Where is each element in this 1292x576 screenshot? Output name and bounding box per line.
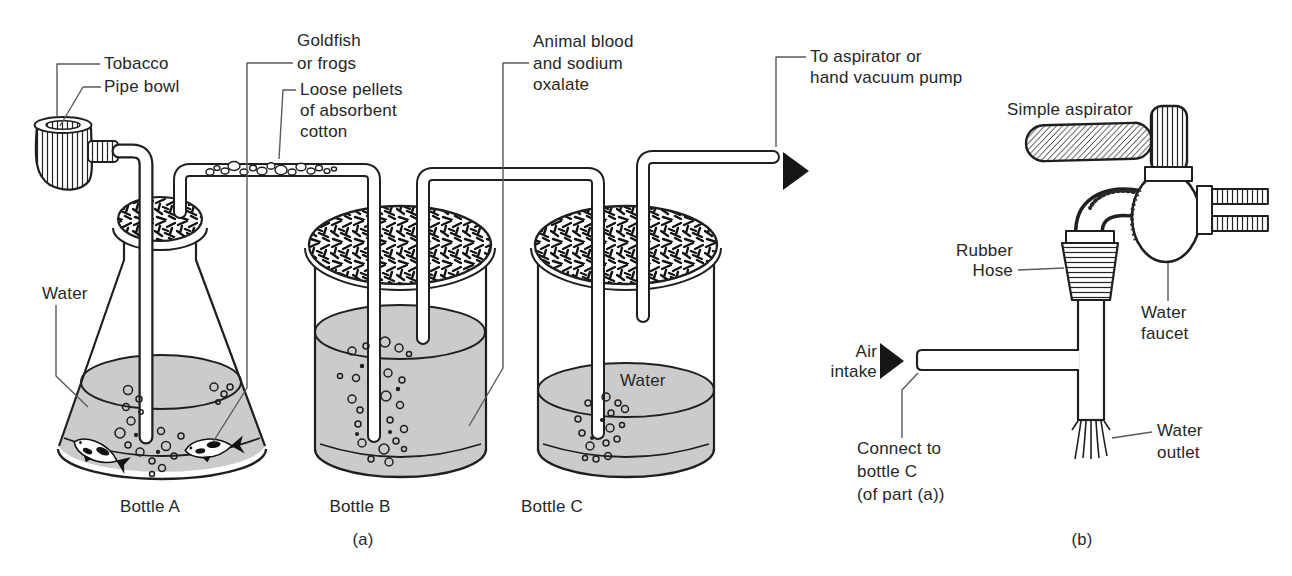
tobacco-pipe xyxy=(35,117,119,190)
label-water-faucet-2: faucet xyxy=(1141,324,1189,343)
faucet-stem xyxy=(1151,106,1187,172)
label-bottle-c: Bottle C xyxy=(521,497,583,516)
label-water-outlet-2: outlet xyxy=(1157,443,1200,462)
label-water-outlet-1: Water xyxy=(1157,421,1203,440)
supply-pipe-bottom xyxy=(1212,216,1268,231)
leader-water-outlet xyxy=(1112,432,1152,438)
faucet-handle xyxy=(1026,122,1153,161)
label-blood-1: Animal blood xyxy=(533,32,634,51)
cotton-stopper-a xyxy=(113,197,207,250)
label-air-intake-1: Air xyxy=(856,342,878,361)
leader-tobacco xyxy=(57,64,100,117)
label-tobacco: Tobacco xyxy=(104,54,169,73)
part-b-aspirator: Simple aspirator Rubber Hose Water fauce… xyxy=(830,100,1268,548)
leader-rubber-hose xyxy=(1018,268,1064,270)
label-goldfish-2: or frogs xyxy=(297,54,356,73)
label-bottle-b: Bottle B xyxy=(329,497,390,516)
label-pipe-bowl: Pipe bowl xyxy=(104,77,180,96)
label-cotton-1: Loose pellets xyxy=(300,80,403,99)
label-connect-3: (of part (a)) xyxy=(857,485,945,504)
supply-pipe-collar xyxy=(1197,186,1212,234)
label-bottle-a: Bottle A xyxy=(120,497,181,516)
part-a-apparatus: Tobacco Pipe bowl Goldfish or frogs Loos… xyxy=(35,31,963,548)
leader-connect xyxy=(902,373,918,438)
diagram-canvas: Tobacco Pipe bowl Goldfish or frogs Loos… xyxy=(0,0,1292,576)
cotton-lid-c xyxy=(531,206,721,290)
rubber-hose-coupling xyxy=(1062,243,1118,300)
caption-part-a: (a) xyxy=(353,530,374,548)
caption-part-b: (b) xyxy=(1072,530,1093,548)
label-goldfish-1: Goldfish xyxy=(297,31,361,50)
air-intake-arrow-icon xyxy=(880,343,904,379)
bottle-c-jar xyxy=(531,206,721,478)
label-connect-1: Connect to xyxy=(857,439,941,458)
label-water-faucet-1: Water xyxy=(1141,303,1187,322)
label-rubber-hose-1: Rubber xyxy=(956,241,1013,260)
hose-clamp-band xyxy=(1066,231,1114,243)
faucet-body xyxy=(1132,172,1200,262)
label-water-bottle-c: Water xyxy=(620,371,666,390)
leader-to-aspirator xyxy=(776,57,806,147)
supply-pipe-top xyxy=(1212,189,1268,204)
label-simple-aspirator: Simple aspirator xyxy=(1007,100,1133,119)
label-to-aspirator-2: hand vacuum pump xyxy=(810,68,963,87)
aspirator-down-pipe xyxy=(1078,298,1104,420)
cotton-lid-b xyxy=(305,206,495,290)
air-intake-tube xyxy=(918,350,1079,370)
label-blood-3: oxalate xyxy=(533,75,589,94)
bottle-b-liquid xyxy=(315,305,486,478)
label-blood-2: and sodium xyxy=(533,54,623,73)
leader-cotton xyxy=(279,90,296,159)
figure-smoking-apparatus: Tobacco Pipe bowl Goldfish or frogs Loos… xyxy=(0,0,1292,576)
water-outlet-stream xyxy=(1072,420,1110,459)
label-cotton-2: of absorbent xyxy=(300,101,397,120)
bottle-b-jar xyxy=(305,206,495,478)
label-rubber-hose-2: Hose xyxy=(973,261,1014,280)
label-water-flask: Water xyxy=(42,284,88,303)
label-air-intake-2: intake xyxy=(830,362,877,381)
flow-arrow-icon xyxy=(783,152,809,190)
bottle-a-flask xyxy=(58,197,266,479)
label-connect-2: bottle C xyxy=(857,462,917,481)
label-cotton-3: cotton xyxy=(300,122,348,141)
faucet-neck-collar xyxy=(1145,167,1192,181)
label-to-aspirator-1: To aspirator or xyxy=(810,47,922,66)
